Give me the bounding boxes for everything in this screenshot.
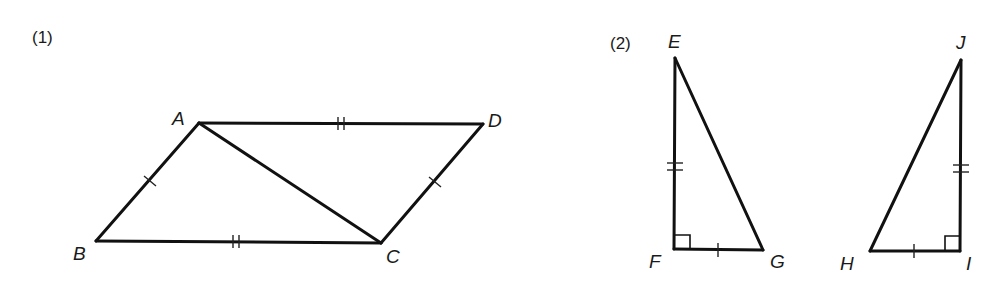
segment-ji: [960, 60, 961, 251]
segment-ef: [674, 58, 675, 249]
vertex-label-b: B: [73, 243, 86, 264]
right-angle-marker-i: [945, 236, 960, 251]
vertex-label-f: F: [649, 251, 662, 272]
segment-dc: [381, 124, 483, 243]
vertex-label-g: G: [770, 251, 785, 272]
triangle-efg: [667, 58, 763, 257]
vertex-label-a: A: [171, 108, 185, 129]
geometry-figure: (1) A B C D (2): [0, 0, 1004, 283]
triangle-hij: [870, 60, 969, 258]
vertex-label-h: H: [840, 253, 854, 274]
vertex-label-e: E: [668, 31, 681, 52]
parallelogram-abcd: [96, 123, 483, 243]
vertex-label-i: I: [966, 253, 972, 274]
problem-1: (1) A B C D: [32, 28, 502, 267]
segment-ge: [675, 58, 763, 250]
problem-2-number: (2): [610, 34, 631, 53]
segment-ad: [199, 123, 483, 124]
segment-ba: [96, 123, 199, 241]
segment-hj: [870, 60, 961, 251]
diagonal-ac: [199, 123, 381, 243]
right-angle-marker-f: [675, 235, 690, 249]
problem-2: (2) E F G H I J: [610, 31, 972, 274]
vertex-label-c: C: [386, 246, 400, 267]
vertex-label-j: J: [955, 32, 966, 53]
vertex-label-d: D: [488, 110, 502, 131]
problem-1-number: (1): [32, 28, 53, 47]
